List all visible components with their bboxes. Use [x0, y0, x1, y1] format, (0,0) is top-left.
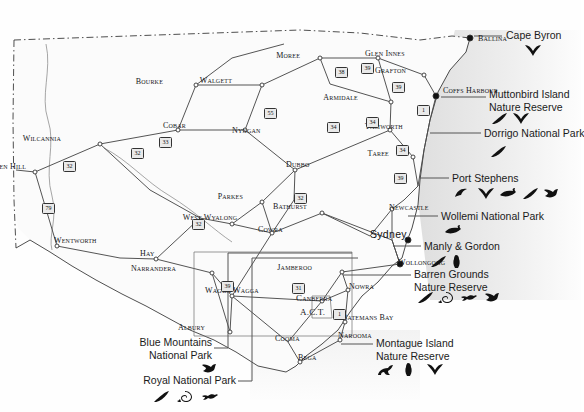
- annotation-label-montague-island-nature-reserve[interactable]: Montague IslandNature Reserve: [376, 337, 454, 362]
- town-dot: [433, 93, 439, 99]
- town-label-bourke: Bourke: [136, 77, 163, 86]
- penguin-icon: [404, 363, 413, 377]
- route-shield: 38: [335, 67, 348, 78]
- route-shield: 1: [417, 105, 430, 116]
- route-shield: 32: [192, 219, 205, 230]
- bird-icon: [483, 291, 501, 304]
- town-dot: [98, 142, 102, 146]
- annotation-label-dorrigo-national-park[interactable]: Dorrigo National Park: [484, 127, 584, 140]
- feather-icon: [521, 187, 539, 200]
- annotation-line: Barren Grounds: [414, 268, 489, 281]
- annotation-label-barren-grounds-nature-reserve[interactable]: Barren GroundsNature Reserve: [414, 268, 489, 293]
- annotation-line: Cape Byron: [506, 29, 561, 42]
- dolphin-icon: [444, 224, 462, 237]
- town-label-canberra: Canberra: [296, 293, 332, 303]
- town-label-cowra: Cowra: [258, 225, 283, 234]
- feather-icon: [429, 255, 447, 268]
- annotation-line: Nature Reserve: [376, 350, 454, 363]
- route-shield: 39: [394, 173, 407, 184]
- route-shield: 39: [361, 63, 374, 74]
- route-shield: 33: [159, 137, 172, 148]
- snail-shell-icon: [177, 390, 195, 403]
- route-shield: 32: [131, 148, 144, 159]
- town-dot: [422, 73, 426, 77]
- town-dot: [340, 270, 344, 274]
- snail-shell-icon: [438, 291, 456, 304]
- town-label-ballina: Ballina: [478, 34, 507, 43]
- annotation-line: Montague Island: [376, 337, 454, 350]
- annotation-label-manly-and-gordon[interactable]: Manly & Gordon: [424, 240, 500, 253]
- route-shield: 34: [366, 117, 379, 128]
- town-label-newcastle: Newcastle: [389, 203, 429, 212]
- town-dot: [228, 330, 232, 334]
- annotation-label-muttonbird-island-nature-reserve[interactable]: Muttonbird IslandNature Reserve: [489, 88, 570, 113]
- route-shield: 39: [221, 281, 234, 292]
- route-shield: 55: [264, 108, 277, 119]
- bird-icon: [542, 187, 560, 200]
- annotation-line: Port Stephens: [452, 172, 519, 185]
- annotation-line: Muttonbird Island: [489, 88, 570, 101]
- town-label-cooma: Cooma: [275, 334, 300, 343]
- route-shield: 32: [63, 161, 76, 172]
- whale-tail-icon: [426, 363, 444, 376]
- town-label-armidale: Armidale: [323, 93, 358, 102]
- route-shield: 39: [392, 82, 405, 93]
- town-dot: [33, 170, 37, 174]
- town-label-narooma: Narooma: [338, 331, 372, 340]
- route-shield: 79: [42, 203, 55, 214]
- annotation-label-cape-byron[interactable]: Cape Byron: [506, 29, 561, 42]
- town-label-nyngan: Nyngan: [232, 126, 261, 135]
- town-label-nowra: Nowra: [349, 282, 374, 291]
- town-dot: [318, 56, 322, 60]
- town-dot: [230, 222, 234, 226]
- annotation-label-blue-mountains-national-park[interactable]: Blue MountainsNational Park: [140, 336, 212, 361]
- town-label-hay: Hay: [140, 249, 155, 258]
- town-label-sydney: Sydney: [370, 228, 407, 240]
- whale-tail-icon: [477, 187, 495, 200]
- town-dot: [194, 83, 198, 87]
- town-label-grafton: Grafton: [375, 66, 406, 75]
- town-label-glen-innes: Glen Innes: [365, 49, 405, 58]
- feather-icon: [490, 112, 508, 125]
- seal-icon: [377, 363, 395, 376]
- route-shield: 34: [327, 122, 340, 133]
- town-dot: [467, 35, 473, 41]
- town-dot: [210, 271, 214, 275]
- dolphin-icon: [499, 187, 517, 200]
- town-label-parkes: Parkes: [218, 192, 243, 201]
- town-label-cobar: Cobar: [163, 121, 186, 130]
- route-shield: 34: [396, 145, 409, 156]
- town-label-albury: Albury: [178, 323, 205, 332]
- annotation-line: National Park: [140, 349, 212, 362]
- annotation-line: Royal National Park: [143, 374, 236, 387]
- annotation-line: Manly & Gordon: [424, 240, 500, 253]
- annotation-label-royal-national-park[interactable]: Royal National Park: [143, 374, 236, 387]
- town-label-wilcannia: Wilcannia: [23, 134, 61, 143]
- town-label-bega: Bega: [298, 353, 316, 362]
- lizard-icon: [460, 291, 478, 304]
- route-shield: 32: [294, 193, 307, 204]
- town-label-walgett: Walgett: [200, 76, 232, 85]
- town-label-dubbo: Dubbo: [286, 160, 309, 169]
- annotation-label-wollemi-national-park[interactable]: Wollemi National Park: [441, 210, 544, 223]
- annotation-label-port-stephens[interactable]: Port Stephens: [452, 172, 519, 185]
- route-shield: 1: [333, 309, 346, 320]
- town-dot: [389, 100, 393, 104]
- town-dot: [260, 83, 264, 87]
- whale-tail-icon: [512, 112, 530, 125]
- town-label-moree: Moree: [276, 51, 300, 60]
- town-dot: [411, 155, 415, 159]
- town-dot: [260, 200, 264, 204]
- town-label-jamberoo: Jamberoo: [277, 263, 312, 272]
- route-shield: 31: [292, 283, 305, 294]
- town-label-taree: Taree: [367, 149, 389, 158]
- annotation-line: Blue Mountains: [140, 336, 212, 349]
- town-label-west-wyalong: West Wyalong: [182, 213, 238, 222]
- feather-icon: [489, 145, 507, 158]
- whale-tail-icon: [524, 44, 542, 57]
- town-label-batemans-bay: Batemans Bay: [342, 313, 394, 322]
- town-label-narrandera: Narrandera: [131, 264, 176, 273]
- lizard-icon: [201, 390, 219, 403]
- town-label-wentworth: Wentworth: [54, 236, 97, 245]
